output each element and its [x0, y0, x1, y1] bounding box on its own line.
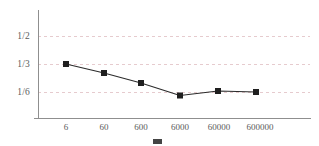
gridlines [38, 37, 310, 93]
ytick-label-1-3: 1/3 [2, 59, 30, 69]
ytick-label-1-2: 1/2 [2, 31, 30, 41]
xtick-label-6: 6 [64, 122, 69, 132]
figure-container: 1/2 1/3 1/6 6 60 600 6000 60000 600000 [0, 0, 319, 146]
series-line [66, 64, 256, 96]
data-point-marker [177, 93, 183, 99]
xtick-label-60000: 60000 [208, 122, 231, 132]
data-point-marker [101, 70, 107, 76]
data-point-marker [138, 80, 144, 86]
data-point-marker [253, 89, 259, 95]
xtick-label-600: 600 [134, 122, 148, 132]
xtick-label-60: 60 [100, 122, 109, 132]
data-point-marker [215, 88, 221, 94]
figure-caption [0, 136, 319, 146]
legend-swatch-icon [153, 139, 162, 144]
ytick-label-1-6: 1/6 [2, 87, 30, 97]
xtick-label-6000: 6000 [171, 122, 189, 132]
data-point-marker [63, 61, 69, 67]
xtick-label-600000: 600000 [247, 122, 274, 132]
